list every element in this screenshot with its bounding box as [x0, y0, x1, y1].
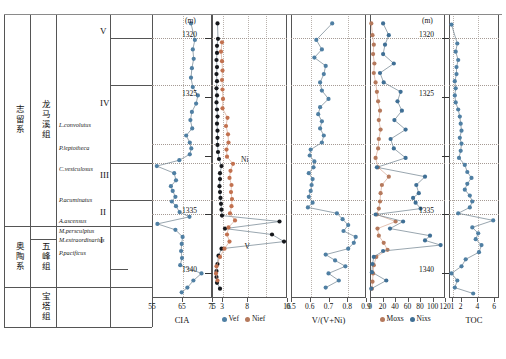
- data-point: [372, 255, 376, 259]
- depth-label-toc-1: 1325: [419, 89, 434, 98]
- data-point: [215, 44, 219, 48]
- data-point: [464, 257, 468, 261]
- zone-boundary-3: [110, 200, 152, 201]
- data-point: [228, 211, 232, 215]
- data-point: [385, 248, 389, 252]
- xticklabel-cia-0: 55: [137, 302, 167, 311]
- data-point: [387, 175, 391, 179]
- legend-entry-Moxs: Moxs: [380, 314, 404, 323]
- data-point: [311, 165, 315, 169]
- data-point: [322, 72, 326, 76]
- zone-boundary-4: [110, 269, 128, 270]
- annotation-vef_nief-1: V: [245, 242, 250, 251]
- data-point: [309, 148, 313, 152]
- data-point: [377, 137, 381, 141]
- formation-label-1: 五峰组: [35, 226, 55, 287]
- depth-unit-vef_nief: (m): [185, 16, 196, 25]
- data-point: [343, 264, 347, 268]
- data-point: [220, 59, 224, 63]
- data-point: [310, 183, 314, 187]
- data-point: [454, 72, 458, 76]
- data-point: [155, 222, 159, 226]
- data-point: [173, 228, 177, 232]
- data-point: [177, 158, 181, 162]
- data-point: [370, 262, 374, 266]
- data-point: [465, 170, 469, 174]
- data-point: [220, 214, 224, 218]
- data-point: [470, 199, 474, 203]
- data-point: [471, 291, 475, 295]
- legend-moxs_nixs: MoxsNixs: [380, 314, 437, 323]
- legend-swatch-icon: [380, 317, 385, 322]
- data-point: [449, 23, 453, 27]
- data-point: [179, 249, 183, 253]
- data-point: [194, 102, 198, 106]
- data-point: [404, 128, 408, 132]
- data-point: [346, 223, 350, 227]
- legend-label: Moxs: [387, 314, 404, 323]
- legend-swatch-icon: [222, 317, 227, 322]
- zone-boundary-2: [110, 163, 152, 164]
- xaxis-vef_nief: [212, 297, 287, 298]
- data-point: [214, 58, 218, 62]
- data-point: [417, 191, 421, 195]
- series-line-CIA: [157, 23, 202, 292]
- data-point: [449, 271, 453, 275]
- data-point: [229, 183, 233, 187]
- xticklabel-toc-3: 6: [479, 302, 506, 311]
- data-point: [370, 33, 374, 37]
- data-point: [191, 47, 195, 51]
- data-point: [476, 231, 480, 235]
- data-point: [214, 86, 218, 90]
- data-point: [469, 176, 473, 180]
- chemozone-1: IV: [100, 98, 110, 108]
- xticklabel-cia-1: 65: [167, 302, 197, 311]
- data-point: [383, 43, 387, 47]
- data-point: [224, 124, 228, 128]
- data-point: [190, 66, 194, 70]
- data-point: [226, 225, 230, 229]
- system-label-1: 奥陶系: [9, 226, 29, 287]
- data-point: [324, 286, 328, 290]
- data-point: [380, 183, 384, 187]
- system-divider-2: [4, 287, 152, 288]
- legend-label: Nief: [252, 314, 265, 323]
- data-point: [217, 184, 221, 188]
- data-point: [218, 196, 222, 200]
- data-point: [453, 93, 457, 97]
- data-point: [372, 43, 376, 47]
- chemozone-3: II: [100, 207, 106, 217]
- data-point: [181, 235, 185, 239]
- data-point: [171, 189, 175, 193]
- data-point: [225, 155, 229, 159]
- data-point: [312, 159, 316, 163]
- legend-entry-Vef: Vef: [222, 314, 239, 323]
- data-point: [215, 65, 219, 69]
- data-point: [174, 178, 178, 182]
- depth-tick-vef_nief-2: [205, 156, 212, 157]
- zone-boundary-0: [110, 38, 152, 39]
- data-point: [180, 242, 184, 246]
- data-point: [227, 240, 231, 244]
- data-point: [459, 122, 463, 126]
- data-point: [453, 79, 457, 83]
- data-point: [231, 162, 235, 166]
- data-point: [377, 118, 381, 122]
- chemozone-0: V: [100, 26, 107, 36]
- data-point: [226, 140, 230, 144]
- data-point: [454, 50, 458, 54]
- data-point: [335, 211, 339, 215]
- data-point: [404, 156, 408, 160]
- strat-col-divider-1: [30, 14, 31, 327]
- depth-label-toc-0: 1320: [419, 30, 434, 39]
- formation-label-2: 宝塔组: [35, 287, 55, 327]
- biozone-5: M.persculptus: [59, 227, 94, 234]
- axis-label-cia: CIA: [142, 315, 222, 325]
- zone-boundary-1: [110, 85, 152, 86]
- data-point: [414, 183, 418, 187]
- data-point: [219, 50, 223, 54]
- xticklabel-vef_nief-2: 8: [232, 302, 262, 311]
- strat-col-divider-0: [4, 14, 5, 327]
- data-point: [192, 57, 196, 61]
- data-point: [316, 112, 320, 116]
